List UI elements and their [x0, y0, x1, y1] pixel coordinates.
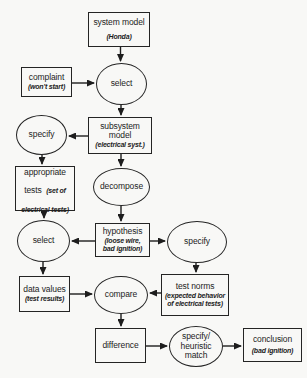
node-select-2-title: select [33, 236, 55, 246]
node-compare: compare [94, 276, 148, 314]
node-specify-right-title: specify [184, 237, 210, 247]
node-hypothesis-note: (loose wire, bad ignition) [98, 237, 147, 253]
node-subsystem-model: subsystem model (electrical syst.) [88, 117, 152, 154]
flowchart-canvas: system model (Honda) complaint (won't st… [0, 0, 307, 378]
node-decompose-title: decompose [100, 182, 143, 192]
node-specify-heuristic-match-title: specify/ heuristic match [170, 332, 222, 362]
node-specify-heuristic-match: specify/ heuristic match [169, 326, 223, 367]
node-hypothesis-title: hypothesis [103, 227, 143, 237]
node-complaint: complaint (won't start) [21, 67, 72, 97]
node-data-values-title: data values [23, 285, 65, 295]
node-complaint-note: (won't start) [28, 83, 65, 91]
node-conclusion-title: conclusion [253, 335, 292, 345]
node-select-1-title: select [111, 79, 133, 89]
node-specify-left-title: specify [29, 130, 55, 140]
node-select-1: select [96, 63, 147, 105]
node-hypothesis: hypothesis (loose wire, bad ignition) [95, 223, 150, 257]
node-decompose: decompose [93, 168, 150, 206]
node-difference-title: difference [102, 341, 138, 351]
node-appropriate-tests: appropriate tests (set of electrical tes… [15, 166, 75, 211]
node-select-2: select [17, 220, 70, 262]
node-data-values-note: (test results) [25, 295, 64, 303]
node-test-norms-title: test norms [176, 282, 215, 292]
node-subsystem-model-title: subsystem model [91, 122, 149, 142]
node-conclusion: conclusion (bad ignition) [243, 328, 302, 362]
node-complaint-title: complaint [29, 73, 64, 83]
node-difference: difference [95, 328, 146, 363]
node-data-values: data values (test results) [19, 276, 70, 312]
node-system-model-title: system model [93, 18, 144, 28]
node-subsystem-model-note: (electrical syst.) [95, 141, 144, 149]
node-specify-left: specify [16, 115, 67, 155]
node-compare-title: compare [105, 290, 137, 300]
node-test-norms-note: (expected behavior of electrical tests) [163, 292, 227, 308]
node-test-norms: test norms (expected behavior of electri… [161, 274, 229, 316]
node-conclusion-note: (bad ignition) [252, 347, 294, 355]
node-system-model-note: (Honda) [106, 33, 131, 41]
node-specify-right: specify [167, 221, 227, 263]
node-system-model: system model (Honda) [88, 12, 150, 47]
